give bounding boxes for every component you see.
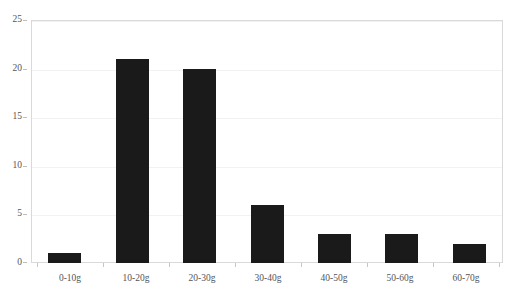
x-tick-mark bbox=[367, 263, 368, 267]
x-tick-mark bbox=[301, 263, 302, 267]
y-tick-label-10: 10 bbox=[13, 161, 23, 171]
bar-chart: 25 20 15 10 5 0 0-10g 10-20g 20-30g 30-4… bbox=[0, 0, 519, 301]
x-tick-label-60-70g: 60-70g bbox=[453, 274, 480, 284]
x-tick-mark bbox=[37, 263, 38, 267]
x-tick-label-30-40g: 30-40g bbox=[255, 274, 282, 284]
x-tick-mark bbox=[235, 263, 236, 267]
y-tick-label-20: 20 bbox=[13, 64, 23, 74]
y-tick-label-0: 0 bbox=[17, 258, 22, 268]
y-tick-mark bbox=[23, 69, 27, 70]
bars-layer bbox=[31, 20, 503, 263]
y-tick-mark bbox=[23, 117, 27, 118]
x-tick-label-0-10g: 0-10g bbox=[59, 274, 81, 284]
x-tick-label-10-20g: 10-20g bbox=[123, 274, 150, 284]
bar-0-10g bbox=[48, 253, 81, 263]
y-axis: 25 20 15 10 5 0 bbox=[0, 20, 27, 263]
x-tick-mark bbox=[169, 263, 170, 267]
bar-40-50g bbox=[318, 234, 351, 263]
bar-60-70g bbox=[453, 244, 486, 263]
bar-10-20g bbox=[116, 59, 149, 263]
x-tick-label-50-60g: 50-60g bbox=[387, 274, 414, 284]
bar-20-30g bbox=[183, 69, 216, 263]
y-tick-label-15: 15 bbox=[13, 112, 23, 122]
x-axis-ticks bbox=[31, 263, 503, 268]
bar-50-60g bbox=[385, 234, 418, 263]
x-tick-mark bbox=[433, 263, 434, 267]
x-tick-mark bbox=[499, 263, 500, 267]
y-tick-mark bbox=[23, 262, 27, 263]
y-tick-mark bbox=[23, 166, 27, 167]
y-tick-label-25: 25 bbox=[13, 15, 23, 25]
x-tick-label-40-50g: 40-50g bbox=[321, 274, 348, 284]
x-axis: 0-10g 10-20g 20-30g 30-40g 40-50g 50-60g… bbox=[31, 274, 503, 290]
y-tick-mark bbox=[23, 20, 27, 21]
y-tick-mark bbox=[23, 214, 27, 215]
y-tick-label-5: 5 bbox=[17, 210, 22, 220]
bar-30-40g bbox=[251, 205, 284, 263]
x-tick-label-20-30g: 20-30g bbox=[189, 274, 216, 284]
x-tick-mark bbox=[103, 263, 104, 267]
